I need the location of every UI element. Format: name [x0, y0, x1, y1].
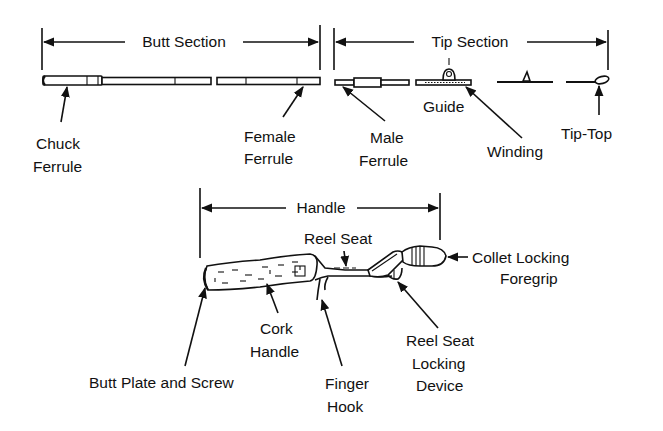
chuck-ferrule-label-2: Ferrule	[33, 158, 82, 175]
butt-section-label: Butt Section	[142, 33, 226, 50]
male-ferrule-label-2: Ferrule	[359, 152, 408, 169]
handle-label: Handle	[296, 199, 345, 216]
guide-label: Guide	[423, 98, 464, 115]
cork-handle-callout: Cork Handle	[250, 284, 299, 360]
reel-seat-locking-device-label-2: Locking	[412, 355, 465, 372]
butt-plate-label: Butt Plate and Screw	[89, 374, 235, 391]
reel-seat-label: Reel Seat	[304, 230, 373, 247]
winding-callout: Winding	[466, 87, 543, 160]
reel-seat-locking-device-label-1: Reel Seat	[406, 332, 475, 349]
finger-hook-callout: Finger Hook	[322, 300, 369, 415]
finger-hook-label-2: Hook	[327, 398, 363, 415]
tip-section-rod	[335, 58, 610, 87]
female-ferrule-label-2: Ferrule	[244, 150, 293, 167]
guide-callout: Guide	[423, 98, 464, 115]
tip-section-label: Tip Section	[432, 33, 509, 50]
male-ferrule-label-1: Male	[370, 129, 404, 146]
handle-drawing	[204, 246, 446, 300]
female-ferrule-callout: Female Ferrule	[244, 87, 303, 167]
fishing-rod-diagram: Butt Section Tip Section	[0, 0, 663, 431]
handle-dimension: Handle	[200, 188, 440, 258]
butt-section-dimension: Butt Section	[42, 25, 320, 70]
male-ferrule-callout: Male Ferrule	[343, 87, 408, 169]
cork-handle-label-1: Cork	[260, 320, 293, 337]
tip-section-dimension: Tip Section	[334, 28, 608, 70]
reel-seat-locking-device-label-3: Device	[416, 377, 463, 394]
butt-plate-callout: Butt Plate and Screw	[89, 288, 235, 391]
butt-section-rod	[43, 76, 320, 85]
chuck-ferrule-callout: Chuck Ferrule	[33, 87, 82, 175]
chuck-ferrule-label-1: Chuck	[36, 135, 80, 152]
collet-locking-foregrip-label-2: Foregrip	[500, 270, 558, 287]
tip-top-label: Tip-Top	[561, 125, 612, 142]
collet-locking-foregrip-callout: Collet Locking Foregrip	[448, 249, 569, 287]
finger-hook-label-1: Finger	[325, 375, 369, 392]
female-ferrule-label-1: Female	[244, 128, 296, 145]
tip-top-callout: Tip-Top	[561, 86, 612, 142]
reel-seat-locking-device-callout: Reel Seat Locking Device	[398, 282, 475, 394]
cork-handle-label-2: Handle	[250, 343, 299, 360]
winding-label: Winding	[487, 143, 543, 160]
collet-locking-foregrip-label-1: Collet Locking	[472, 249, 569, 266]
